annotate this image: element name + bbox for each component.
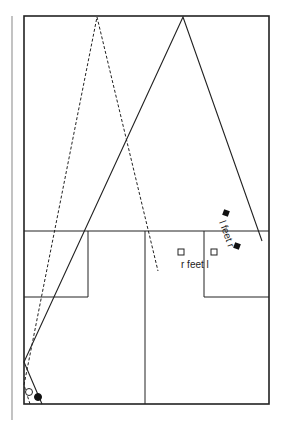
left-box xyxy=(24,231,88,297)
dashed-trajectory xyxy=(24,17,158,404)
court-boundary xyxy=(24,16,269,404)
l-foot-marker xyxy=(222,209,230,217)
open-circle-player xyxy=(26,389,33,396)
filled-circle-player xyxy=(35,394,42,401)
court-diagram: l feet r r feet l xyxy=(0,0,281,425)
r-foot-open-marker xyxy=(178,249,184,255)
r-feet-l-label: r feet l xyxy=(181,259,209,270)
l-feet-r-label: l feet r xyxy=(217,219,237,250)
l-foot-open-marker xyxy=(211,249,217,255)
